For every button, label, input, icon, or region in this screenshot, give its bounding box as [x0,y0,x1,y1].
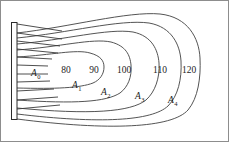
region-sub-a3: 3 [141,96,144,103]
region-sub-a1: 1 [78,85,81,92]
region-sub-a2: 2 [107,92,110,99]
contour-tick-90: 90 [89,65,99,75]
contour-tick-labels: 80 90 100 110 120 [61,65,196,75]
region-label-a2: A2 [100,87,111,99]
wall-hatch-line [17,65,48,66]
region-sub-a0: 0 [37,73,40,80]
figure-canvas: 80 90 100 110 120 A0 A1 A2 A3 A4 [0,0,229,142]
contour-figure: 80 90 100 110 120 A0 A1 A2 A3 A4 [0,0,229,142]
wall-hatch-line [17,89,54,91]
contour-tick-120: 120 [182,65,197,75]
wall-hatch-line [17,49,58,53]
region-label-a0: A0 [30,68,41,80]
region-letter-a0: A [30,68,37,78]
wall-hatch-line [17,33,62,39]
vertical-wall [12,23,18,120]
region-sub-a4: 4 [174,100,178,107]
region-label-a1: A1 [71,80,82,92]
wall-hatch-line [17,105,60,109]
wall-hatch-group [17,24,62,109]
region-letter-a2: A [100,87,107,97]
wall-hatch-line [17,97,58,100]
contour-tick-100: 100 [117,65,132,75]
wall-hatch-line [17,81,50,82]
region-letter-a3: A [134,91,141,101]
wall-hatch-line [17,57,52,59]
contour-tick-80: 80 [61,65,71,75]
contour-line-120 [17,14,200,127]
region-letter-a1: A [71,80,78,90]
region-label-a4: A4 [167,95,178,107]
contour-tick-110: 110 [153,65,167,75]
region-label-a3: A3 [134,91,145,103]
region-letter-a4: A [167,95,174,105]
